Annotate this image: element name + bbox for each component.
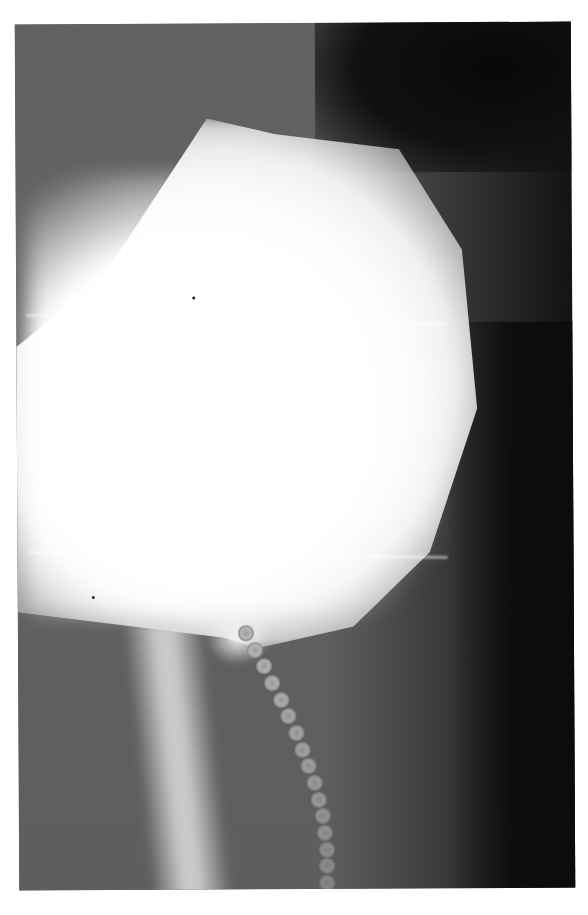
bead-marker xyxy=(256,658,272,674)
bladder-bright-core xyxy=(26,172,438,614)
bead-marker xyxy=(238,625,254,641)
bead-marker xyxy=(288,725,304,741)
bead-marker xyxy=(319,841,335,857)
bead-marker xyxy=(311,791,327,807)
dust-speck xyxy=(192,297,195,300)
dust-speck xyxy=(92,596,95,599)
bead-marker xyxy=(314,808,330,824)
bead-marker xyxy=(247,642,263,658)
radiograph-image xyxy=(15,22,576,891)
bead-marker xyxy=(273,692,289,708)
bead-marker xyxy=(319,875,335,891)
bead-marker xyxy=(306,775,322,791)
